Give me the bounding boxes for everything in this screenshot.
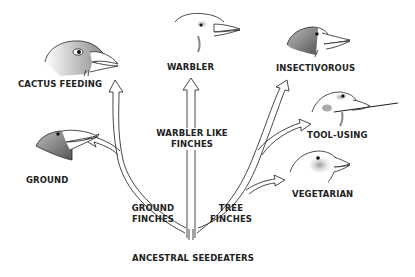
veg-sub-arrow	[246, 175, 285, 194]
insectivorous-finch-head-icon	[287, 27, 350, 57]
species-label-warbler: WARBLER	[167, 62, 214, 73]
tool-using-finch-head-icon	[312, 92, 398, 126]
species-label-insectivorous: INSECTIVOROUS	[276, 63, 355, 74]
species-label-vegetarian: VEGETARIAN	[292, 189, 353, 200]
species-label-cactus-feeding: CACTUS FEEDING	[18, 79, 102, 90]
branch-label-line1: GROUND	[128, 203, 178, 214]
species-label-ground: GROUND	[26, 175, 68, 186]
branch-label-tree-finches: TREE FINCHES	[208, 203, 254, 225]
branch-label-line2: FINCHES	[208, 214, 254, 225]
root-label-ancestral-seedeaters: ANCESTRAL SEEDEATERS	[132, 253, 254, 264]
branch-label-ground-finches: GROUND FINCHES	[128, 203, 178, 225]
branch-label-line2: FINCHES	[155, 139, 229, 150]
ground-finch-head-icon	[36, 130, 97, 160]
branch-label-line1: TREE	[208, 203, 254, 214]
tree-arrows	[85, 78, 311, 240]
branch-label-warbler-like-finches: WARBLER LIKE FINCHES	[155, 128, 229, 150]
species-label-tool-using: TOOL-USING	[307, 130, 367, 141]
warbler-arrow	[183, 78, 199, 238]
warbler-finch-head-icon	[175, 13, 240, 52]
branch-label-line2: FINCHES	[128, 214, 178, 225]
cactus-finch-head-icon	[45, 41, 118, 76]
branch-label-line1: WARBLER LIKE	[155, 128, 229, 139]
vegetarian-finch-head-icon	[290, 151, 350, 182]
